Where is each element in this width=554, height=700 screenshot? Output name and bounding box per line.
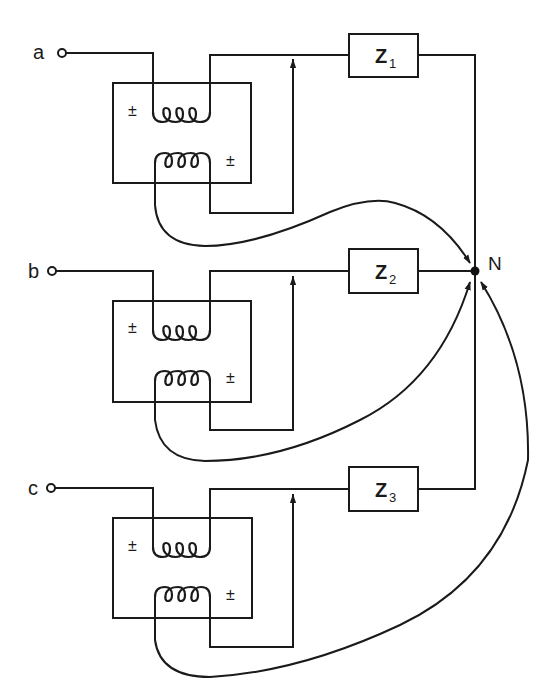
- three-phase-circuit-diagram: a ± ± Z 1 b ± ± Z: [0, 0, 554, 700]
- primary-coil-a: [153, 108, 210, 122]
- polarity-mark-secondary-b: ±: [226, 369, 235, 386]
- polarity-mark-primary-c: ±: [128, 537, 137, 554]
- terminal-label-a: a: [33, 41, 45, 63]
- secondary-coil-b: [155, 371, 210, 385]
- secondary-coil-a: [155, 153, 210, 167]
- polarity-mark-primary-b: ±: [128, 319, 137, 336]
- polarity-mark-secondary-a: ±: [226, 152, 235, 169]
- phase-b: b ± ± Z 2: [28, 249, 475, 461]
- transformer-box-c: [113, 518, 252, 618]
- terminal-c[interactable]: [47, 484, 55, 492]
- return-curve-a: [155, 163, 470, 263]
- neutral-node[interactable]: [471, 267, 480, 276]
- primary-coil-c: [153, 543, 210, 557]
- terminal-label-c: c: [28, 477, 38, 499]
- terminal-label-b: b: [28, 260, 39, 282]
- neutral-node-label: N: [488, 253, 502, 274]
- impedance-z1-subscript: 1: [389, 56, 396, 71]
- polarity-mark-primary-a: ±: [128, 102, 137, 119]
- neutral-wire-a: [418, 55, 475, 271]
- polarity-mark-secondary-c: ±: [226, 586, 235, 603]
- impedance-z1-label: Z: [375, 45, 387, 67]
- phase-a: a ± ± Z 1: [33, 34, 475, 271]
- neutral-wire-c: [418, 271, 475, 489]
- primary-coil-b: [153, 326, 210, 340]
- impedance-z2-subscript: 2: [389, 272, 396, 287]
- impedance-z3-subscript: 3: [389, 490, 396, 505]
- terminal-a[interactable]: [58, 49, 66, 57]
- secondary-coil-c: [155, 587, 210, 601]
- phase-c: c ± ± Z 3: [28, 271, 528, 677]
- impedance-z3-label: Z: [375, 479, 387, 501]
- impedance-z2-label: Z: [375, 261, 387, 283]
- terminal-b[interactable]: [48, 267, 56, 275]
- transformer-box-b: [113, 301, 251, 402]
